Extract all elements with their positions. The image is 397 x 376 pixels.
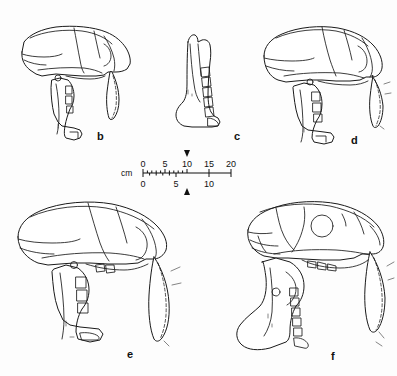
scale-lower-tick-5: 5	[173, 179, 178, 189]
scale-upper-tick-20: 20	[226, 159, 236, 169]
figure-plate: b c	[0, 0, 397, 376]
panel-label-b: b	[97, 131, 104, 142]
panel-label-c: c	[234, 131, 240, 142]
panel-f-skull	[230, 192, 394, 364]
scale-bar: 0 5 10 15 20 cm	[119, 150, 251, 202]
panel-e-skull	[8, 193, 188, 363]
scale-bottom-arrow-icon	[184, 188, 190, 195]
scale-upper-tick-10: 10	[182, 159, 192, 169]
scale-upper-tick-0: 0	[140, 159, 145, 169]
panel-label-d: d	[351, 135, 358, 146]
panel-d-skull	[252, 16, 394, 144]
scale-lower-tick-0: 0	[140, 179, 145, 189]
panel-b-skull	[8, 14, 138, 140]
scale-lower-tick-10: 10	[204, 179, 214, 189]
scale-upper-tick-5: 5	[162, 159, 167, 169]
panel-label-f: f	[331, 351, 335, 362]
scale-upper-tick-15: 15	[204, 159, 214, 169]
scale-unit-label: cm	[121, 168, 132, 178]
panel-c-mandible	[168, 28, 238, 140]
panel-label-e: e	[127, 349, 133, 360]
scale-top-arrow-icon	[184, 150, 190, 157]
